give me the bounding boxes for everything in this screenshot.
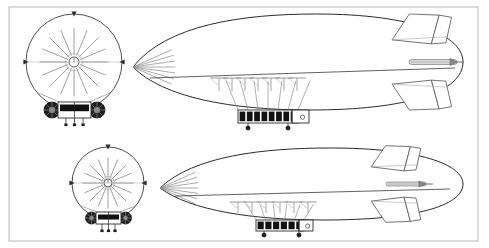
propeller-hub — [93, 106, 100, 113]
landing-wheel — [286, 126, 290, 130]
gondola-window — [265, 222, 271, 230]
gondola-window — [254, 112, 260, 122]
landing-skid-pad — [113, 230, 116, 233]
landing-skid-pad — [73, 124, 76, 127]
gondola-window — [283, 112, 289, 122]
gondola-window — [281, 222, 287, 230]
propeller-hub — [48, 106, 55, 113]
gondola-window — [273, 222, 279, 230]
gondola-window — [276, 112, 282, 122]
gondola-window — [289, 222, 295, 230]
landing-wheel — [246, 126, 250, 130]
landing-skid-pad — [100, 230, 103, 233]
gondola-window — [269, 112, 275, 122]
gondola-window — [247, 112, 253, 122]
landing-wheel — [297, 233, 301, 237]
drawing-sheet — [0, 0, 489, 248]
landing-wheel — [262, 233, 266, 237]
gondola-window — [262, 112, 268, 122]
gondola-window — [240, 112, 246, 122]
propeller-hub — [123, 215, 128, 220]
propeller-hub — [89, 215, 94, 220]
landing-skid-pad — [81, 124, 84, 127]
landing-skid-pad — [64, 124, 67, 127]
landing-skid-pad — [107, 230, 110, 233]
gondola-window — [258, 222, 264, 230]
airship-drawing-canvas — [0, 0, 489, 248]
